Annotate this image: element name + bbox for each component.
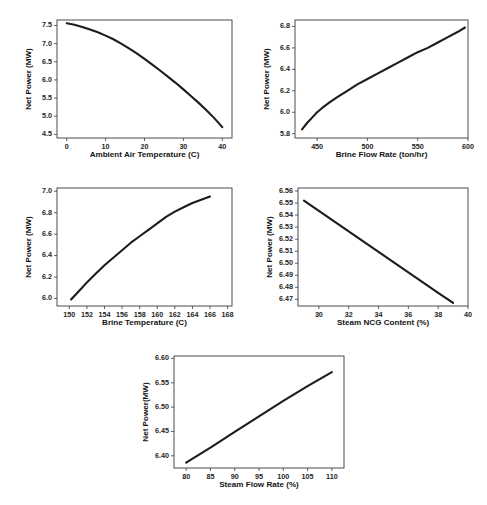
- panel-brine-flow-rate: 4505005506005.86.06.26.46.66.8Brine Flow…: [262, 12, 478, 170]
- y-tick-label: 5.8: [280, 129, 290, 138]
- y-axis-label: Net Power (MW): [265, 216, 274, 278]
- y-tick-label: 6.56: [279, 186, 293, 195]
- y-tick-label: 6.2: [280, 86, 290, 95]
- sensitivity-analysis-figure: 0102030404.55.05.56.06.57.07.5Ambient Ai…: [0, 0, 487, 505]
- y-tick-label: 6.55: [155, 378, 169, 387]
- y-tick-label: 6.40: [155, 451, 169, 460]
- plot-area: 1501521541561581601621641661686.06.26.46…: [24, 186, 234, 327]
- y-tick-label: 6.0: [42, 293, 52, 302]
- y-tick-label: 6.50: [279, 258, 293, 267]
- y-tick-label: 6.54: [279, 210, 293, 219]
- x-tick-label: 85: [206, 472, 214, 481]
- data-line: [186, 372, 332, 463]
- y-tick-label: 6.2: [42, 272, 52, 281]
- x-tick-label: 166: [204, 310, 216, 319]
- x-tick-label: 164: [186, 310, 198, 319]
- y-tick-label: 6.0: [42, 75, 52, 84]
- y-tick-label: 5.0: [42, 111, 52, 120]
- data-line: [71, 197, 210, 300]
- x-tick-label: 150: [63, 310, 75, 319]
- x-tick-label: 105: [302, 472, 314, 481]
- y-tick-label: 6.8: [42, 208, 52, 217]
- y-tick-label: 6.50: [155, 402, 169, 411]
- y-tick-label: 6.55: [279, 198, 293, 207]
- y-tick-label: 6.6: [280, 43, 290, 52]
- x-tick-label: 110: [326, 472, 338, 481]
- y-tick-label: 6.52: [279, 234, 293, 243]
- plot-area: 4505005506005.86.06.26.46.66.8Brine Flow…: [262, 20, 474, 159]
- panel-steam-flow-rate: 808590951001051106.406.456.506.556.60Ste…: [138, 348, 354, 500]
- y-tick-label: 6.4: [280, 64, 290, 73]
- y-tick-label: 6.8: [280, 21, 290, 30]
- plot-area: 3032343638406.476.486.496.506.516.526.53…: [265, 186, 472, 327]
- y-axis-label: Net Power (MW): [24, 216, 33, 278]
- x-axis-label: Ambient Air Temperature (C): [90, 150, 200, 159]
- y-tick-label: 6.0: [280, 107, 290, 116]
- x-tick-label: 38: [434, 310, 442, 319]
- y-tick-label: 6.60: [155, 353, 169, 362]
- data-line: [67, 23, 223, 127]
- y-tick-label: 5.5: [42, 93, 52, 102]
- y-tick-label: 6.47: [279, 294, 293, 303]
- x-tick-label: 40: [218, 142, 226, 151]
- x-tick-label: 40: [464, 310, 472, 319]
- y-tick-label: 6.4: [42, 250, 52, 259]
- x-tick-label: 30: [315, 310, 323, 319]
- y-tick-label: 6.6: [42, 229, 52, 238]
- x-tick-label: 80: [182, 472, 190, 481]
- y-tick-label: 7.0: [42, 186, 52, 195]
- y-tick-label: 6.51: [279, 246, 293, 255]
- plot-area: 808590951001051106.406.456.506.556.60Ste…: [141, 353, 344, 489]
- data-line: [304, 201, 453, 303]
- panel-steam-ncg-content: 3032343638406.476.486.496.506.516.526.53…: [262, 180, 478, 338]
- x-axis-label: Steam NCG Content (%): [337, 318, 429, 327]
- x-tick-label: 450: [311, 142, 323, 151]
- y-tick-label: 6.53: [279, 222, 293, 231]
- y-tick-label: 6.5: [42, 57, 52, 66]
- x-tick-label: 168: [222, 310, 234, 319]
- y-axis-label: Net Power(MW): [141, 382, 150, 442]
- x-axis-label: Brine Flow Rate (ton/hr): [336, 150, 428, 159]
- panel-ambient-air-temperature: 0102030404.55.05.56.06.57.07.5Ambient Ai…: [24, 12, 240, 170]
- x-tick-label: 152: [81, 310, 93, 319]
- y-tick-label: 6.45: [155, 426, 169, 435]
- y-tick-label: 7.0: [42, 39, 52, 48]
- panel-brine-temperature: 1501521541561581601621641661686.06.26.46…: [24, 180, 240, 338]
- plot-area: 0102030404.55.05.56.06.57.07.5Ambient Ai…: [24, 20, 232, 159]
- x-axis-label: Brine Temperature (C): [102, 318, 187, 327]
- y-tick-label: 6.48: [279, 282, 293, 291]
- data-line: [302, 28, 465, 130]
- y-tick-label: 4.5: [42, 129, 52, 138]
- x-axis-label: Steam Flow Rate (%): [219, 480, 299, 489]
- y-axis-label: Net Power (MW): [262, 48, 271, 110]
- x-tick-label: 600: [462, 142, 474, 151]
- y-tick-label: 6.49: [279, 270, 293, 279]
- y-axis-label: Net Power (MW): [24, 48, 33, 110]
- y-tick-label: 7.5: [42, 20, 52, 29]
- x-tick-label: 0: [65, 142, 69, 151]
